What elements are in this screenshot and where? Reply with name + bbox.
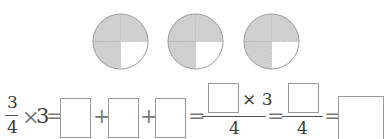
- fraction-bar: [5, 115, 18, 116]
- fraction-circle-2: [167, 13, 224, 70]
- answer-box-4[interactable]: [208, 83, 239, 113]
- denominator-2: 4: [229, 120, 240, 137]
- fraction-numerator: 3: [7, 94, 18, 111]
- denominator-3: 4: [297, 120, 308, 137]
- fraction-circle-3: [243, 13, 300, 70]
- answer-box-1[interactable]: [60, 98, 91, 138]
- fraction-circle-1: [92, 13, 149, 70]
- answer-box-3[interactable]: [155, 98, 186, 138]
- answer-box-2[interactable]: [108, 98, 139, 138]
- fraction-bar-3: [282, 116, 323, 117]
- answer-box-6[interactable]: [338, 96, 384, 139]
- answer-box-5[interactable]: [288, 83, 319, 113]
- fraction-denominator: 4: [7, 119, 18, 136]
- fraction-bar-2: [202, 116, 266, 117]
